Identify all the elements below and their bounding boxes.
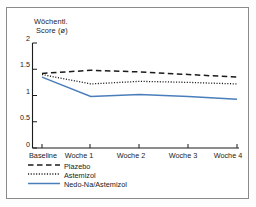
chart-plot-area [0, 0, 256, 207]
figure-canvas: Wöchentl. Score (ø) 0 0.5 1 1.5 2 Baseli… [0, 0, 256, 207]
x-axis [33, 144, 240, 148]
y-axis [33, 43, 38, 148]
series-line-plazebo [42, 70, 237, 77]
legend-swatches [28, 165, 60, 184]
